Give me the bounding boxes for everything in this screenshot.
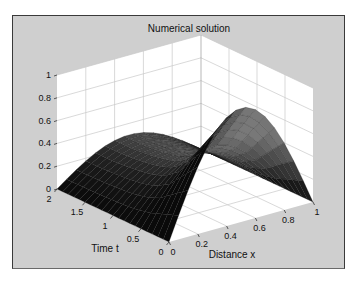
x-tick-label: 1 <box>314 207 319 217</box>
z-tick-label: 0.8 <box>38 93 51 103</box>
z-tick-label: 0.2 <box>38 161 51 171</box>
x-tick-label: 0.2 <box>196 239 209 249</box>
x-tick-label: 0 <box>170 247 175 257</box>
x-tick-label: 0.6 <box>253 223 266 233</box>
x-tick-label: 0.8 <box>282 215 295 225</box>
chart-title: Numerical solution <box>148 23 230 34</box>
z-tick-label: 0.6 <box>38 116 51 126</box>
x-tick-label: 0.4 <box>224 231 237 241</box>
z-tick-label: 1 <box>46 70 51 80</box>
surface-plot: Numerical solution Distance x Time t 00.… <box>0 0 358 283</box>
t-tick-label: 1 <box>102 221 107 231</box>
y-axis-label: Time t <box>91 243 119 254</box>
t-tick-label: 2 <box>46 194 51 204</box>
t-tick-label: 0.5 <box>127 234 140 244</box>
z-tick-label: 0.4 <box>38 138 51 148</box>
z-tick-labels: 00.20.40.60.81 <box>38 70 51 194</box>
z-tick-label: 0 <box>46 184 51 194</box>
t-tick-label: 0 <box>158 247 163 257</box>
x-axis-label: Distance x <box>209 249 256 260</box>
t-tick-label: 1.5 <box>71 207 84 217</box>
